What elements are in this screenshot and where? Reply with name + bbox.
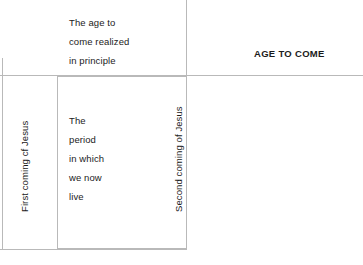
timeline-baseline [0,249,186,250]
second-coming-of-jesus-label: Second coming of Jesus [173,106,184,212]
age-realized-text: The age to come realized in principle [69,13,181,70]
present-period-text: The period in which we now live [69,111,149,206]
diagram-canvas: The age to come realized in principle Th… [0,0,363,265]
first-coming-axis-line [2,58,3,250]
first-coming-of-jesus-label: First coming cf Jesus [19,121,30,212]
second-coming-axis-line [186,0,187,250]
age-to-come-heading: AGE TO COME [254,48,325,59]
